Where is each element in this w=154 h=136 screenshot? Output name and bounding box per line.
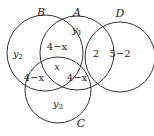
region-label-a-b-c: x	[54, 61, 60, 72]
region-label-a-c: 4−x	[67, 72, 88, 83]
region-label-b-c: 4−x	[24, 72, 45, 83]
region-label-a-b: 4−x	[47, 41, 68, 52]
set-label-b: B	[36, 6, 45, 19]
region-label-a-d: 2	[93, 48, 99, 59]
region-label-b-only: y2	[12, 48, 23, 61]
set-label-c: C	[77, 117, 86, 130]
venn-diagram: BADC y1y2y34−x25−2x4−x4−x	[0, 0, 154, 136]
set-label-a: A	[72, 6, 81, 19]
region-label-a-only: y1	[71, 24, 82, 37]
region-label-c-only: y3	[52, 98, 63, 111]
set-label-d: D	[115, 7, 125, 20]
region-label-d-only: 5−2	[109, 48, 130, 59]
